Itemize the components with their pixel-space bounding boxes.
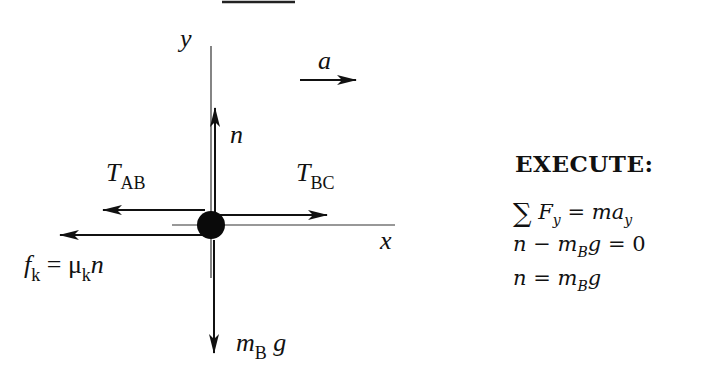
eq1-equals: = bbox=[567, 200, 585, 224]
eq2-equals: = bbox=[608, 232, 626, 256]
eq2-minus: − bbox=[533, 232, 551, 256]
eq2-n: n bbox=[513, 232, 527, 256]
friction-equals: = bbox=[47, 250, 62, 279]
execute-heading: EXECUTE: bbox=[515, 150, 653, 177]
tension-ab-label: TAB bbox=[106, 160, 145, 186]
weight-label: mB g bbox=[236, 330, 286, 356]
eq2-m: m bbox=[558, 232, 578, 256]
normal-force-label: n bbox=[230, 122, 243, 148]
friction-n: n bbox=[91, 250, 104, 279]
acceleration-label: a bbox=[318, 48, 331, 74]
eq3-equals: = bbox=[533, 266, 551, 290]
tension-ab-subscript: AB bbox=[120, 173, 145, 193]
eq1-lhs-sub: y bbox=[553, 212, 561, 228]
equation-3: n = mBg bbox=[513, 268, 601, 289]
y-axis-label: y bbox=[180, 26, 192, 52]
tension-ab-symbol: T bbox=[106, 158, 120, 187]
tension-bc-subscript: BC bbox=[310, 173, 334, 193]
tension-bc-symbol: T bbox=[296, 158, 310, 187]
eq3-g: g bbox=[588, 266, 601, 290]
eq2-rhs: 0 bbox=[632, 232, 645, 256]
tension-bc-label: TBC bbox=[296, 160, 334, 186]
friction-subscript: k bbox=[31, 265, 40, 285]
weight-m: m bbox=[236, 328, 255, 357]
eq3-m-sub: B bbox=[577, 278, 587, 294]
eq1-rhs-sub: y bbox=[624, 212, 632, 228]
eq1-lhs: F bbox=[538, 200, 553, 224]
friction-label: fk = μkn bbox=[24, 252, 104, 278]
equation-2: n − mBg = 0 bbox=[513, 234, 646, 255]
eq3-n: n bbox=[513, 266, 527, 290]
eq2-g: g bbox=[588, 232, 601, 256]
block-b-dot bbox=[197, 211, 225, 239]
eq1-rhs: ma bbox=[592, 200, 624, 224]
eq3-m: m bbox=[558, 266, 578, 290]
weight-g: g bbox=[273, 328, 286, 357]
friction-mu: μ bbox=[68, 250, 82, 279]
eq2-m-sub: B bbox=[577, 244, 587, 260]
x-axis-label: x bbox=[380, 228, 392, 254]
sum-symbol: ∑ bbox=[513, 198, 532, 228]
weight-subscript: B bbox=[255, 343, 267, 363]
friction-mu-subscript: k bbox=[82, 265, 91, 285]
equation-1: ∑ Fy = may bbox=[513, 197, 632, 223]
